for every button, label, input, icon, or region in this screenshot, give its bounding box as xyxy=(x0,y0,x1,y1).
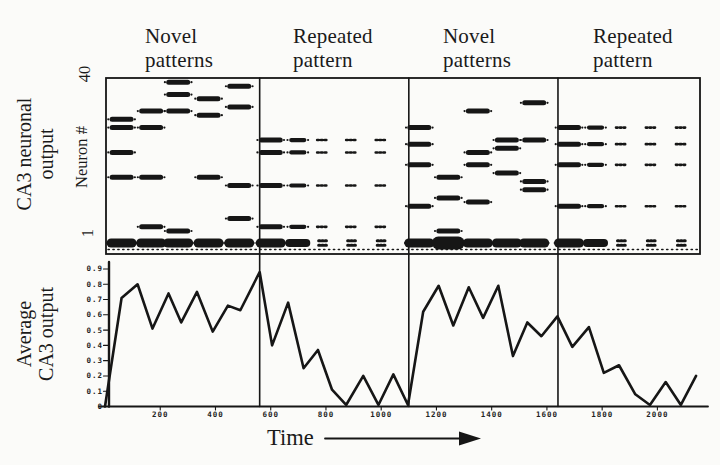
neuron-tick-1: 1 xyxy=(78,229,98,237)
y-tick-label-0: 0 xyxy=(69,402,103,411)
neuron-tick-40: 40 xyxy=(75,66,95,83)
header-line: patterns xyxy=(443,48,511,72)
figure-canvas: Novel patterns Repeated pattern Novel pa… xyxy=(0,0,720,465)
x-tick-label-1600: 1600 xyxy=(536,410,558,419)
line-panel-ylabel: Average CA3 output xyxy=(13,287,57,381)
y-tick-label-0.4: 0.4 xyxy=(69,341,103,350)
x-tick-label-1000: 1000 xyxy=(370,410,392,419)
y-tick-label-0.3: 0.3 xyxy=(69,356,103,365)
y-tick-label-0.6: 0.6 xyxy=(69,310,103,319)
label-line: output xyxy=(35,98,57,211)
header-line: pattern xyxy=(293,48,373,72)
x-tick-label-1800: 1800 xyxy=(591,410,613,419)
header-line: patterns xyxy=(145,48,213,72)
header-line: Novel xyxy=(443,24,511,48)
y-tick-label-0.8: 0.8 xyxy=(69,280,103,289)
raster-panel-ylabel: CA3 neuronal output xyxy=(13,98,57,211)
section-header-repeated-2: Repeated pattern xyxy=(593,24,673,72)
x-tick-label-1200: 1200 xyxy=(425,410,447,419)
x-tick-label-1400: 1400 xyxy=(481,410,503,419)
section-header-novel-1: Novel patterns xyxy=(145,24,213,72)
x-tick-label-400: 400 xyxy=(207,410,224,419)
y-tick-label-0.2: 0.2 xyxy=(69,371,103,380)
section-header-novel-2: Novel patterns xyxy=(443,24,511,72)
section-header-repeated-1: Repeated pattern xyxy=(293,24,373,72)
header-line: Repeated xyxy=(593,24,673,48)
label-line: CA3 output xyxy=(35,287,57,381)
header-line: Repeated xyxy=(293,24,373,48)
y-tick-label-0.7: 0.7 xyxy=(69,295,103,304)
y-tick-label-0.5: 0.5 xyxy=(69,326,103,335)
label-line: Average xyxy=(13,287,35,381)
x-tick-label-2000: 2000 xyxy=(646,410,668,419)
y-tick-label-0.9: 0.9 xyxy=(69,264,103,273)
neuron-axis-label: Neuron # xyxy=(72,126,92,188)
label-line: CA3 neuronal xyxy=(13,98,35,211)
x-tick-label-800: 800 xyxy=(318,410,335,419)
y-tick-label-0.1: 0.1 xyxy=(69,387,103,396)
header-line: Novel xyxy=(145,24,213,48)
x-tick-label-200: 200 xyxy=(152,410,169,419)
x-tick-label-600: 600 xyxy=(262,410,279,419)
time-axis-label: Time xyxy=(267,425,314,451)
header-line: pattern xyxy=(593,48,673,72)
